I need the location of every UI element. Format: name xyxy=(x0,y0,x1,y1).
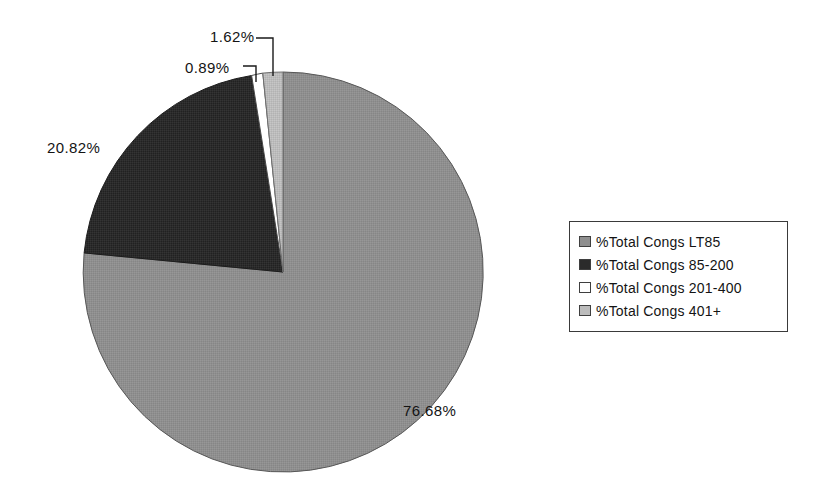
legend-item-401plus: %Total Congs 401+ xyxy=(579,299,777,322)
legend-item-lt85: %Total Congs LT85 xyxy=(579,230,777,253)
legend-label-401plus: %Total Congs 401+ xyxy=(596,303,721,319)
data-label-lt85: 76.68% xyxy=(403,402,456,419)
legend-item-85-200: %Total Congs 85-200 xyxy=(579,253,777,276)
legend-swatch-85-200 xyxy=(579,259,591,270)
legend-label-201-400: %Total Congs 201-400 xyxy=(596,280,742,296)
legend-swatch-401plus xyxy=(579,305,591,316)
pie-slice-85-200 xyxy=(84,76,283,273)
data-label-201-400: 0.89% xyxy=(185,59,230,76)
legend-label-lt85: %Total Congs LT85 xyxy=(596,234,721,250)
legend-swatch-lt85 xyxy=(579,236,591,247)
leader-line-401plus xyxy=(256,38,273,76)
data-label-401plus: 1.62% xyxy=(210,28,255,45)
legend-swatch-201-400 xyxy=(579,282,591,293)
legend-item-201-400: %Total Congs 201-400 xyxy=(579,276,777,299)
pie-chart: 76.68% 20.82% 0.89% 1.62% %Total Congs L… xyxy=(0,0,832,496)
data-label-85-200: 20.82% xyxy=(47,139,100,156)
chart-legend: %Total Congs LT85 %Total Congs 85-200 %T… xyxy=(569,221,788,332)
legend-label-85-200: %Total Congs 85-200 xyxy=(596,257,734,273)
